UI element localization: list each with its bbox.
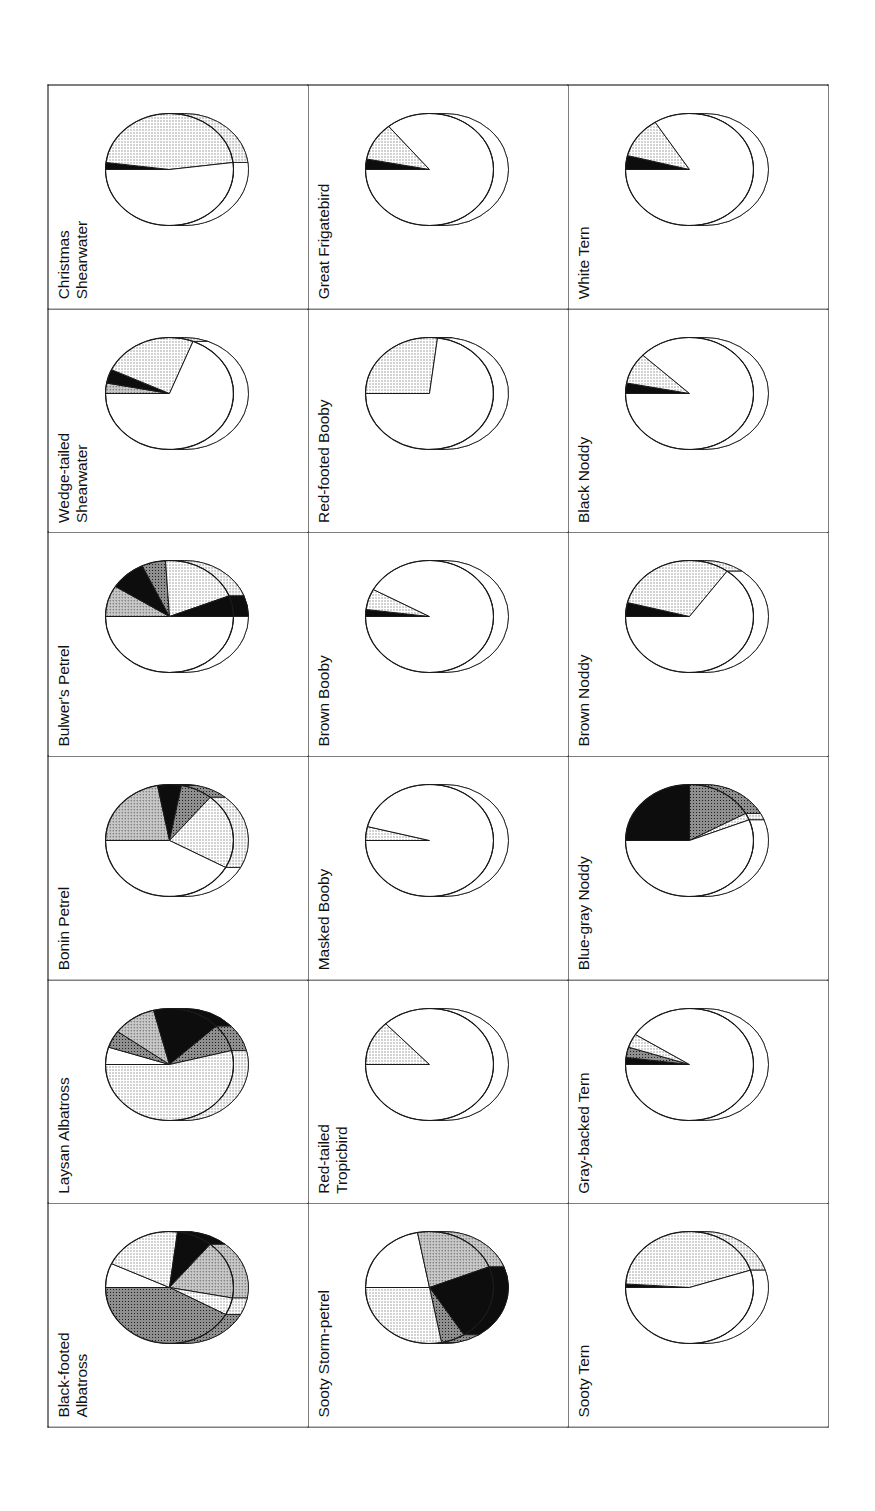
pie-slice[interactable] (365, 337, 437, 393)
pie-slice[interactable] (365, 1287, 441, 1343)
pie-svg (623, 538, 773, 688)
species-label: Blue-gray Noddy (574, 856, 592, 970)
pie-chart-red-tailed-tropicbird[interactable] (363, 986, 513, 1136)
species-label: Gray-backed Tern (574, 1072, 592, 1193)
cell-white-tern[interactable]: White Tern (568, 85, 828, 309)
pie-chart-laysan-albatross[interactable] (103, 986, 253, 1136)
species-label: Bonin Petrel (54, 886, 72, 969)
pie-chart-brown-booby[interactable] (363, 538, 513, 688)
table-row: Sooty Storm-petrel Red-tailed Tropicbird… (308, 85, 568, 1427)
species-label: Sooty Tern (574, 1344, 592, 1417)
species-label: Great Frigatebird (314, 183, 332, 298)
cell-sooty-storm-petrel[interactable]: Sooty Storm-petrel (308, 1203, 568, 1427)
pie-chart-wedge-tailed-shearwater[interactable] (103, 315, 253, 465)
species-label: Christmas Shearwater (54, 220, 90, 298)
pie-chart-bonin-petrel[interactable] (103, 762, 253, 912)
species-label: Wedge-tailed Shearwater (54, 433, 90, 523)
pie-chart-grid: Black-footed Albatross Laysan Albatross … (47, 84, 828, 1427)
cell-blue-gray-noddy[interactable]: Blue-gray Noddy (568, 756, 828, 980)
table-row: Black-footed Albatross Laysan Albatross … (48, 85, 308, 1427)
pie-svg (103, 762, 253, 912)
species-label: Black Noddy (574, 436, 592, 522)
species-label: Red-tailed Tropicbird (314, 1124, 350, 1194)
cell-sooty-tern[interactable]: Sooty Tern (568, 1203, 828, 1427)
pie-svg (623, 986, 773, 1136)
cell-black-noddy[interactable]: Black Noddy (568, 308, 828, 532)
pie-chart-white-tern[interactable] (623, 91, 773, 241)
pie-chart-masked-booby[interactable] (363, 762, 513, 912)
cell-christmas-shearwater[interactable]: Christmas Shearwater (48, 85, 308, 309)
species-label: Masked Booby (314, 868, 332, 969)
pie-chart-blue-gray-noddy[interactable] (623, 762, 773, 912)
pie-chart-christmas-shearwater[interactable] (103, 91, 253, 241)
pie-svg (363, 315, 513, 465)
pie-chart-great-frigatebird[interactable] (363, 91, 513, 241)
cell-brown-noddy[interactable]: Brown Noddy (568, 532, 828, 756)
species-label: Bulwer's Petrel (54, 645, 72, 746)
species-label: Laysan Albatross (54, 1077, 72, 1193)
pie-svg (363, 538, 513, 688)
pie-svg (103, 1209, 253, 1359)
species-label: Black-footed Albatross (54, 1332, 90, 1417)
pie-svg (623, 91, 773, 241)
cell-black-footed-albatross[interactable]: Black-footed Albatross (48, 1203, 308, 1427)
cell-bonin-petrel[interactable]: Bonin Petrel (48, 756, 308, 980)
species-label: White Tern (574, 226, 592, 299)
species-label: Red-footed Booby (314, 399, 332, 522)
cell-masked-booby[interactable]: Masked Booby (308, 756, 568, 980)
pie-svg (363, 986, 513, 1136)
pie-chart-black-noddy[interactable] (623, 315, 773, 465)
cell-wedge-tailed-shearwater[interactable]: Wedge-tailed Shearwater (48, 308, 308, 532)
pie-chart-black-footed-albatross[interactable] (103, 1209, 253, 1359)
pie-svg (363, 1209, 513, 1359)
pie-chart-brown-noddy[interactable] (623, 538, 773, 688)
cell-great-frigatebird[interactable]: Great Frigatebird (308, 85, 568, 309)
pie-chart-sooty-tern[interactable] (623, 1209, 773, 1359)
pie-svg (103, 538, 253, 688)
pie-svg (103, 986, 253, 1136)
table-row: Sooty Tern Gray-backed Tern Blue-gray No… (568, 85, 828, 1427)
species-label: Brown Booby (314, 655, 332, 746)
figure-rotation-wrapper: Black-footed Albatross Laysan Albatross … (47, 84, 828, 1427)
cell-gray-backed-tern[interactable]: Gray-backed Tern (568, 979, 828, 1203)
pie-svg (623, 762, 773, 912)
cell-bulwers-petrel[interactable]: Bulwer's Petrel (48, 532, 308, 756)
pie-svg (103, 315, 253, 465)
cell-brown-booby[interactable]: Brown Booby (308, 532, 568, 756)
pie-chart-gray-backed-tern[interactable] (623, 986, 773, 1136)
pie-svg (103, 91, 253, 241)
cell-red-tailed-tropicbird[interactable]: Red-tailed Tropicbird (308, 979, 568, 1203)
pie-svg (363, 91, 513, 241)
pie-svg (363, 762, 513, 912)
pie-chart-bulwers-petrel[interactable] (103, 538, 253, 688)
pie-chart-red-footed-booby[interactable] (363, 315, 513, 465)
pie-svg (623, 1209, 773, 1359)
species-label: Sooty Storm-petrel (314, 1290, 332, 1417)
pie-svg (623, 315, 773, 465)
species-label: Brown Noddy (574, 654, 592, 746)
pie-chart-sooty-storm-petrel[interactable] (363, 1209, 513, 1359)
cell-laysan-albatross[interactable]: Laysan Albatross (48, 979, 308, 1203)
cell-red-footed-booby[interactable]: Red-footed Booby (308, 308, 568, 532)
